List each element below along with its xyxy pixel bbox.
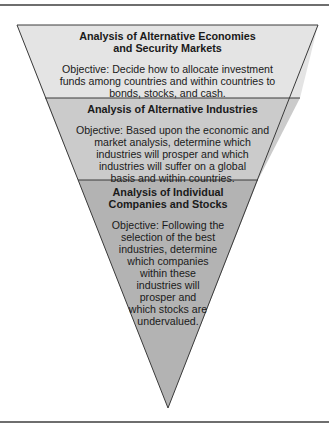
level-2-title: Analysis of Alternative Industries	[60, 103, 285, 115]
level-1-objective-line: Objective: Decide how to allocate invest…	[40, 63, 295, 75]
level-2-objective: Objective: Based upon the economic and m…	[60, 124, 285, 184]
level-3-objective-line: industries, determine	[93, 243, 243, 255]
level-3-objective-line: which companies	[93, 255, 243, 267]
level-3-text: Analysis of Individual Companies and Sto…	[93, 186, 243, 327]
level-1-title: Analysis of Alternative Economies and Se…	[40, 30, 295, 54]
level-3-objective-line: industries will	[93, 279, 243, 291]
level-2-objective-line: industries will suffer on a global	[60, 160, 285, 172]
level-3-objective-line: prosper and	[93, 291, 243, 303]
level-3-objective-line: which stocks are	[93, 303, 243, 315]
level-1-objective-line: funds among countries and within countri…	[40, 75, 295, 87]
level-1-text: Analysis of Alternative Economies and Se…	[40, 30, 295, 99]
level-3-title-line-2: Companies and Stocks	[93, 198, 243, 210]
level-2-objective-line: Objective: Based upon the economic and	[60, 124, 285, 136]
level-3-title-line-1: Analysis of Individual	[93, 186, 243, 198]
level-3-objective-line: Objective: Following the	[93, 219, 243, 231]
level-1-title-line-1: Analysis of Alternative Economies	[40, 30, 295, 42]
level-2-title-line-1: Analysis of Alternative Industries	[60, 103, 285, 115]
level-2-objective-line: industries will prosper and which	[60, 148, 285, 160]
level-2-objective-line: basis and within countries.	[60, 172, 285, 184]
level-3-objective-line: within these	[93, 267, 243, 279]
level-3-title: Analysis of Individual Companies and Sto…	[93, 186, 243, 210]
level-2-objective-line: market analysis, determine which	[60, 136, 285, 148]
level-1-title-line-2: and Security Markets	[40, 42, 295, 54]
level-3-objective: Objective: Following the selection of th…	[93, 219, 243, 327]
level-1-objective-line: bonds, stocks, and cash.	[40, 87, 295, 99]
level-3-objective-line: selection of the best	[93, 231, 243, 243]
level-1-objective: Objective: Decide how to allocate invest…	[40, 63, 295, 99]
level-3-objective-line: undervalued.	[93, 315, 243, 327]
level-2-text: Analysis of Alternative Industries Objec…	[60, 103, 285, 184]
